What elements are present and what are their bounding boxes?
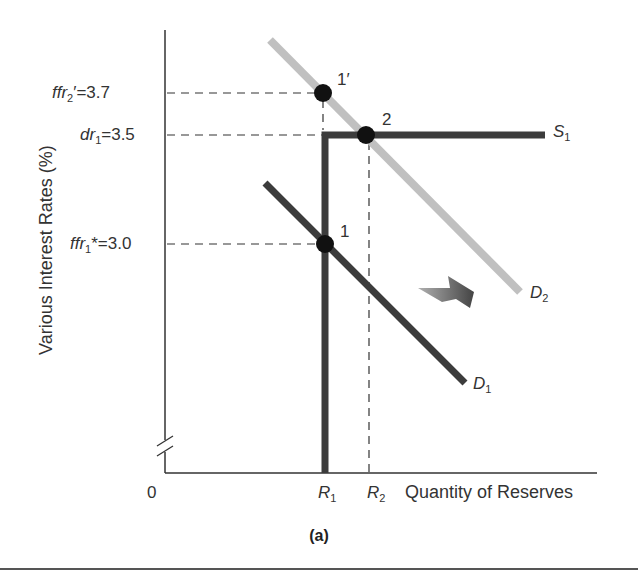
x-tick-r1: R1 — [318, 483, 336, 504]
shift-right-arrow-icon — [418, 276, 474, 308]
y-tick-dr1: dr1=3.5 — [80, 125, 135, 146]
point-1 — [316, 235, 334, 253]
x-axis-title: Quantity of Reserves — [405, 482, 573, 503]
y-axis-title: Various Interest Rates (%) — [36, 145, 57, 355]
y-tick-ffr2-prime: ffr2′=3.7 — [52, 83, 110, 104]
x-tick-r2: R2 — [367, 483, 385, 504]
origin-label: 0 — [147, 483, 156, 503]
point-1-prime — [314, 84, 332, 102]
curve-label-d2: D2 — [530, 283, 548, 304]
point-label-1: 1 — [340, 222, 349, 242]
y-tick-ffr1-star: ffr1*=3.0 — [70, 234, 131, 255]
divider — [0, 568, 638, 570]
demand-curve-d2 — [270, 40, 520, 292]
guide-lines — [167, 93, 369, 473]
curve-label-s1: S1 — [553, 122, 570, 143]
point-label-2: 2 — [382, 110, 391, 130]
point-label-1-prime: 1′ — [337, 70, 350, 90]
demand-curve-d1 — [265, 183, 465, 383]
supply-curve-s1 — [325, 135, 545, 473]
point-2 — [357, 126, 375, 144]
figure-caption: (a) — [0, 527, 638, 545]
curve-label-d1: D1 — [473, 374, 491, 395]
